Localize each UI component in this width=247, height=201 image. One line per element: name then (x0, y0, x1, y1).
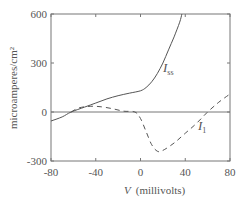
axis-ticks (51, 14, 230, 161)
y-tick-label: -300 (27, 155, 48, 167)
y-tick-label: 0 (42, 106, 48, 118)
x-axis-unit: (millivolts) (136, 184, 186, 197)
y-tick-labels: -300 0 300 600 (27, 8, 48, 167)
x-axis-variable: V (124, 184, 132, 196)
x-tick-label: 80 (225, 166, 237, 178)
y-tick-label: 600 (31, 8, 48, 20)
chart: -80 -40 0 40 80 -300 0 300 600 V(millivo… (0, 0, 247, 201)
x-tick-label: -40 (88, 166, 103, 178)
label-iss: Iss (162, 60, 174, 77)
x-tick-label: -80 (44, 166, 59, 178)
x-axis-label: V(millivolts) (124, 184, 186, 197)
x-tick-label: 0 (138, 166, 144, 178)
plot-frame (51, 14, 230, 161)
y-axis-label: microamperes/cm² (7, 46, 19, 129)
y-tick-label: 300 (31, 57, 48, 69)
x-tick-label: 40 (180, 166, 192, 178)
x-tick-labels: -80 -40 0 40 80 (44, 166, 236, 178)
curve-i1 (71, 94, 230, 152)
label-i1: I1 (197, 118, 206, 135)
